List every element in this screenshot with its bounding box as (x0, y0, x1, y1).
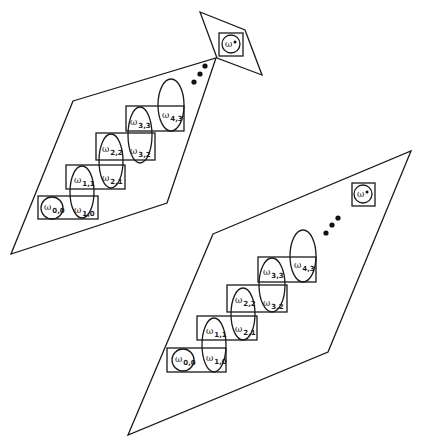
omega-label-2-2: ω2,2 (102, 144, 123, 157)
ellipsis-dot (329, 222, 334, 227)
diagram-svg: ωω0,0ω1,0ω1,1ω2,1ω2,2ω3,2ω3,3ω4,3ωω0,0ω1… (0, 0, 423, 446)
ellipsis-dot (202, 63, 207, 68)
omega-label-1-0: ω1,0 (206, 353, 227, 366)
omega-label-3-3: ω3,3 (263, 267, 284, 280)
omega-label-4-3: ω4,3 (162, 110, 183, 123)
star-superscript-dot (366, 191, 369, 194)
ellipsis-dot (191, 79, 196, 84)
ellipsis-dot (335, 215, 340, 220)
upper-diagram: ωω0,0ω1,0ω1,1ω2,1ω2,2ω3,2ω3,3ω4,3 (11, 12, 262, 254)
omega-label-4-3: ω4,3 (294, 260, 315, 273)
omega-label-2-1: ω2,1 (235, 324, 256, 337)
ellipsis-dot (197, 71, 202, 76)
omega-star-label: ω (225, 39, 232, 49)
diagram-canvas: ωω0,0ω1,0ω1,1ω2,1ω2,2ω3,2ω3,3ω4,3ωω0,0ω1… (0, 0, 423, 446)
ellipsis-dot (323, 230, 328, 235)
star-superscript-dot (234, 41, 237, 44)
omega-ellipse (158, 79, 184, 131)
omega-star-label: ω (357, 189, 364, 199)
omega-ellipse (290, 230, 316, 282)
omega-label-3-3: ω3,3 (130, 117, 151, 130)
